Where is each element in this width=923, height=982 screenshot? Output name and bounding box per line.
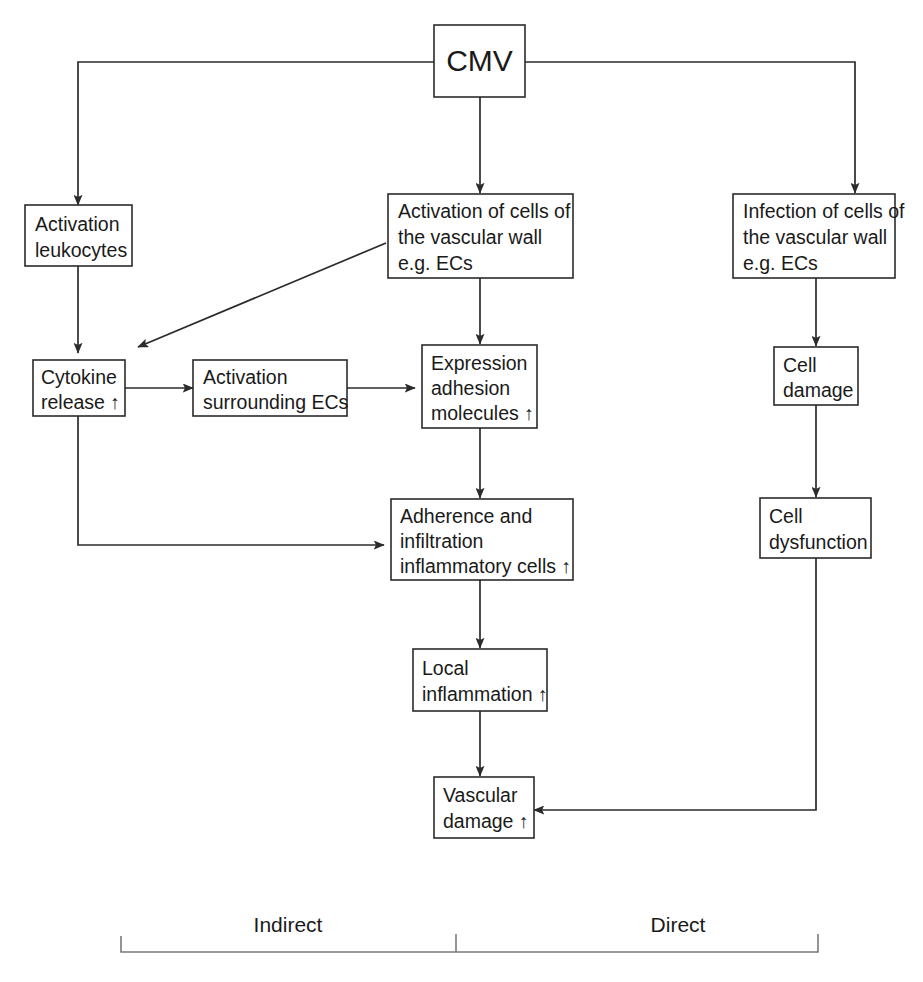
node-activation-surrounding: Activation surrounding ECs: [193, 360, 348, 416]
node-cell-dysfunction-line1: Cell: [769, 505, 803, 527]
node-activation-vascular-line1: Activation of cells of: [398, 200, 571, 222]
bracket-label-indirect: Indirect: [254, 913, 323, 936]
bracket-line: [121, 934, 818, 952]
node-vascular-damage-line2: damage ↑: [443, 810, 529, 832]
node-activation-vascular-line2: the vascular wall: [398, 226, 542, 248]
node-cytokine-release-line1: Cytokine: [41, 366, 117, 388]
node-cell-damage-line2: damage: [783, 379, 853, 401]
node-cytokine-release-line2: release ↑: [41, 391, 120, 413]
node-expression-adhesion-line1: Expression: [431, 352, 527, 374]
node-infection-vascular-line3: e.g. ECs: [743, 252, 818, 274]
node-activation-surrounding-line2: surrounding ECs: [203, 391, 348, 413]
node-activation-vascular: Activation of cells of the vascular wall…: [388, 194, 573, 278]
node-infection-vascular-line1: Infection of cells of: [743, 200, 905, 222]
node-infection-vascular-line2: the vascular wall: [743, 226, 887, 248]
node-adherence-infiltration: Adherence and infiltration inflammatory …: [391, 499, 573, 580]
node-activation-leukocytes-line1: Activation: [35, 213, 120, 235]
node-expression-adhesion: Expression adhesion molecules ↑: [422, 345, 537, 428]
node-cell-dysfunction-line2: dysfunction: [769, 531, 868, 553]
node-vascular-damage-line1: Vascular: [443, 784, 518, 806]
node-activation-surrounding-line1: Activation: [203, 366, 288, 388]
node-cell-damage: Cell damage: [774, 347, 858, 405]
node-expression-adhesion-line3: molecules ↑: [431, 402, 534, 424]
connector-cytokine-to-adherence: [78, 416, 384, 545]
node-adherence-infiltration-line3: inflammatory cells ↑: [400, 555, 571, 577]
flowchart-canvas: CMV Activation leukocytes Activation of …: [0, 0, 923, 982]
connector-cmv-to-activation-leukocytes: [78, 62, 434, 205]
node-local-inflammation: Local inflammation ↑: [413, 649, 548, 711]
node-activation-vascular-line3: e.g. ECs: [398, 252, 473, 274]
node-vascular-damage: Vascular damage ↑: [434, 777, 534, 838]
flowchart-diagram: CMV Activation leukocytes Activation of …: [0, 0, 923, 982]
node-cmv-label: CMV: [446, 44, 513, 77]
node-activation-leukocytes: Activation leukocytes: [25, 205, 132, 266]
node-adherence-infiltration-line1: Adherence and: [400, 505, 532, 527]
node-local-inflammation-line2: inflammation ↑: [422, 683, 548, 705]
bracket-label-direct: Direct: [651, 913, 706, 936]
connector-cell-dysfunction-to-vascular-damage: [534, 558, 816, 810]
node-cmv: CMV: [434, 25, 525, 97]
node-adherence-infiltration-line2: infiltration: [400, 530, 483, 552]
node-infection-vascular: Infection of cells of the vascular wall …: [733, 194, 905, 278]
node-local-inflammation-line1: Local: [422, 657, 469, 679]
node-activation-leukocytes-line2: leukocytes: [35, 239, 127, 261]
node-cytokine-release: Cytokine release ↑: [33, 360, 125, 416]
node-expression-adhesion-line2: adhesion: [431, 377, 510, 399]
category-bracket: Indirect Direct: [121, 913, 818, 952]
node-cell-dysfunction: Cell dysfunction: [760, 498, 871, 558]
connector-activation-vascular-to-cytokine: [138, 243, 386, 347]
node-cell-damage-line1: Cell: [783, 354, 817, 376]
connector-cmv-to-infection-vascular: [525, 62, 855, 193]
